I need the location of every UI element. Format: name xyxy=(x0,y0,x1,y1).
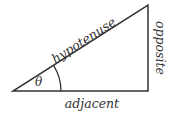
hypotenuse-label: hypotenuse xyxy=(49,14,118,66)
angle-arc xyxy=(54,65,62,91)
opposite-label: opposite xyxy=(153,21,168,75)
right-triangle-diagram: θ hypotenuse opposite adjacent xyxy=(0,0,175,120)
angle-theta-label: θ xyxy=(35,75,43,89)
adjacent-label: adjacent xyxy=(65,96,120,111)
